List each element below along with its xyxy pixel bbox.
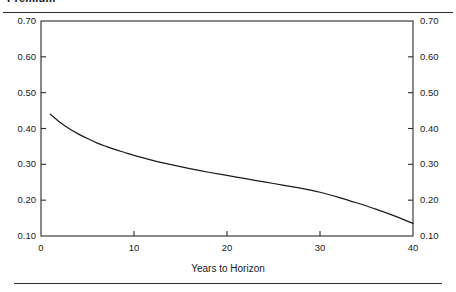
x-axis-title: Years to Horizon <box>0 263 456 274</box>
x-axis-tick-label: 10 <box>119 243 149 253</box>
x-axis-tick-label: 20 <box>212 243 242 253</box>
x-axis-tick-label: 0 <box>26 243 56 253</box>
x-axis-tick-label: 30 <box>305 243 335 253</box>
x-axis: 010203040 <box>0 0 456 292</box>
figure: Premium 0.100.200.300.400.500.600.70 0.1… <box>0 0 456 292</box>
x-axis-tick-label: 40 <box>398 243 428 253</box>
